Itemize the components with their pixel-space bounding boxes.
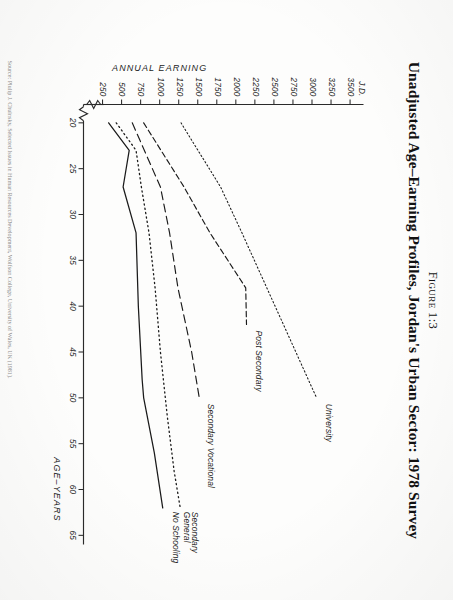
y-axis-title: ANNUAL EARNING xyxy=(111,62,207,72)
y-axis-unit-label: J.D. xyxy=(356,80,365,96)
figure-source-footnote: Source: Plulip J. Chulnsky, Selected Iss… xyxy=(6,60,12,586)
y-tick-label: 3250 xyxy=(326,77,335,96)
y-tick-label: 1500 xyxy=(193,77,202,96)
series-line-university xyxy=(180,122,316,397)
y-tick-label: 2250 xyxy=(250,76,259,96)
x-tick-label: 40 xyxy=(67,301,76,311)
series-label-no-schooling: No Schooling xyxy=(170,511,180,563)
x-tick-label: 55 xyxy=(67,438,76,448)
y-tick-label: 2000 xyxy=(231,76,240,96)
series-line-secondary-vocational xyxy=(132,122,199,397)
y-tick-label: 2500 xyxy=(269,76,278,96)
x-axis-break-symbol xyxy=(79,106,87,120)
series-label-secondary-general: General xyxy=(181,511,191,543)
y-tick-label: 500 xyxy=(117,82,126,97)
x-tick-label: 45 xyxy=(67,347,76,357)
x-tick-label: 65 xyxy=(67,530,76,540)
y-tick-label: 1000 xyxy=(155,77,164,96)
x-axis-title: AGE–YEARS xyxy=(51,456,61,521)
x-tick-label: 20 xyxy=(67,117,76,128)
age-earning-line-chart: 2505007501000125015001750200022502500275… xyxy=(39,58,369,558)
y-tick-label: 250 xyxy=(98,81,107,97)
y-tick-label: 3500 xyxy=(345,77,354,96)
x-tick-label: 35 xyxy=(67,255,76,265)
y-tick-label: 2750 xyxy=(288,76,297,96)
x-tick-label: 60 xyxy=(67,484,76,494)
x-tick-label: 50 xyxy=(67,393,76,403)
series-label-post-secondary: Post Secondary xyxy=(253,330,263,392)
series-line-secondary-general xyxy=(116,122,180,507)
figure-rotated-wrapper: Figure 1:3 Unadjusted Age–Earning Profil… xyxy=(0,0,453,600)
y-tick-label: 750 xyxy=(136,82,145,97)
y-tick-label: 1750 xyxy=(212,77,221,96)
x-tick-label: 25 xyxy=(67,162,76,173)
series-line-no-schooling xyxy=(108,122,162,507)
y-tick-label: 1250 xyxy=(174,77,183,96)
x-tick-label: 30 xyxy=(67,209,76,219)
scanned-page: Figure 1:3 Unadjusted Age–Earning Profil… xyxy=(0,0,453,600)
figure-number: Figure 1:3 xyxy=(424,0,439,600)
chart-series-labels: UniversityPost SecondarySecondary Vocati… xyxy=(170,330,333,563)
y-tick-label: 3000 xyxy=(307,77,316,96)
series-line-post-secondary xyxy=(143,122,246,324)
chart-plot-area: 2505007501000125015001750200022502500275… xyxy=(39,58,369,558)
figure-title: Unadjusted Age–Earning Profiles, Jordan'… xyxy=(404,0,422,600)
series-label-secondary-vocational: Secondary Vocational xyxy=(206,403,216,488)
series-label-university: University xyxy=(323,403,333,442)
